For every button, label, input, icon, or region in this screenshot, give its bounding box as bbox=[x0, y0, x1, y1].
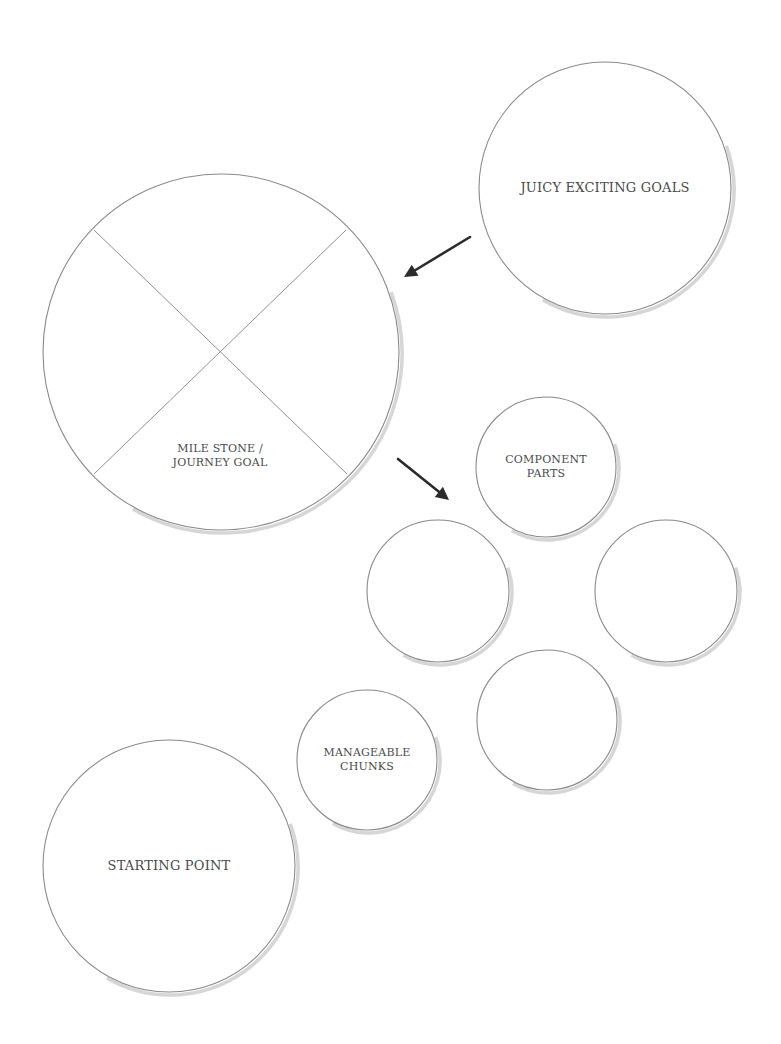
manageable-chunks-label-line: CHUNKS bbox=[324, 760, 411, 774]
component-parts-label-line: PARTS bbox=[505, 467, 587, 481]
juicy-exciting-goals-label-line: JUICY EXCITING GOALS bbox=[520, 180, 689, 197]
juicy-exciting-goals-label: JUICY EXCITING GOALS bbox=[520, 180, 689, 197]
milestone-to-components-arrow-icon bbox=[398, 459, 449, 500]
circle-nodes bbox=[43, 62, 737, 992]
starting-point-label: STARTING POINT bbox=[108, 858, 231, 875]
manageable-chunks-label: MANAGEABLECHUNKS bbox=[324, 746, 411, 775]
component-parts-label: COMPONENTPARTS bbox=[505, 453, 587, 482]
component-right-circle bbox=[595, 520, 737, 662]
diagram-svg bbox=[0, 0, 781, 1044]
goals-to-milestone-arrow-icon bbox=[404, 237, 470, 277]
component-parts-label-line: COMPONENT bbox=[505, 453, 587, 467]
component-bottom-circle bbox=[477, 650, 617, 790]
component-left-circle bbox=[367, 520, 509, 662]
milestone-journey-goal-label: MILE STONE /JOURNEY GOAL bbox=[173, 442, 268, 471]
milestone-journey-goal-label-line: MILE STONE / bbox=[173, 442, 268, 456]
manageable-chunks-label-line: MANAGEABLE bbox=[324, 746, 411, 760]
flow-arrows bbox=[398, 237, 470, 500]
milestone-journey-goal-label-line: JOURNEY GOAL bbox=[173, 456, 268, 470]
starting-point-label-line: STARTING POINT bbox=[108, 858, 231, 875]
